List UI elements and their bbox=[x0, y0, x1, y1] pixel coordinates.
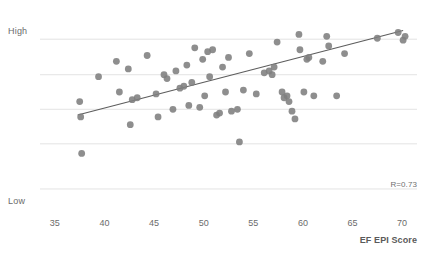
scatter-point bbox=[201, 92, 208, 99]
scatter-point bbox=[125, 66, 132, 73]
x-tick-label: 60 bbox=[290, 218, 316, 228]
x-tick-label: 35 bbox=[42, 218, 68, 228]
x-axis-title: EF EPI Score bbox=[360, 235, 417, 245]
y-axis-label-low: Low bbox=[8, 196, 25, 206]
data-points bbox=[76, 29, 408, 157]
scatter-point bbox=[271, 64, 278, 71]
scatter-point bbox=[116, 89, 123, 96]
scatter-point bbox=[240, 87, 247, 94]
scatter-point bbox=[225, 54, 232, 61]
scatter-chart: High Low 3540455055606570 EF EPI Score R… bbox=[0, 0, 426, 259]
x-tick-label: 70 bbox=[389, 218, 415, 228]
scatter-point bbox=[183, 62, 190, 69]
trend-line-segment bbox=[78, 31, 403, 115]
scatter-point bbox=[155, 114, 162, 121]
scatter-point bbox=[269, 71, 276, 78]
scatter-point bbox=[127, 121, 134, 128]
scatter-point bbox=[113, 58, 120, 65]
scatter-point bbox=[284, 92, 291, 99]
trend-line bbox=[78, 31, 403, 115]
scatter-point bbox=[180, 83, 187, 90]
scatter-point bbox=[153, 91, 160, 98]
scatter-point bbox=[228, 108, 235, 115]
scatter-point bbox=[222, 89, 229, 96]
x-tick-label: 45 bbox=[141, 218, 167, 228]
scatter-point bbox=[170, 106, 177, 113]
scatter-point bbox=[402, 33, 409, 40]
scatter-point bbox=[236, 139, 243, 146]
scatter-point bbox=[78, 150, 85, 157]
scatter-point bbox=[297, 46, 304, 53]
correlation-annotation: R=0.73 bbox=[390, 180, 417, 189]
scatter-point bbox=[253, 91, 260, 98]
y-axis-label-high: High bbox=[8, 26, 27, 36]
scatter-point bbox=[185, 102, 192, 109]
scatter-point bbox=[199, 56, 206, 63]
scatter-point bbox=[341, 50, 348, 57]
scatter-point bbox=[296, 31, 303, 38]
scatter-point bbox=[333, 92, 340, 99]
x-tick-label: 55 bbox=[240, 218, 266, 228]
scatter-point bbox=[305, 54, 312, 61]
scatter-point bbox=[292, 115, 299, 122]
x-tick-label: 50 bbox=[191, 218, 217, 228]
scatter-point bbox=[216, 110, 223, 117]
scatter-point bbox=[301, 89, 308, 96]
scatter-point bbox=[76, 98, 83, 105]
scatter-point bbox=[319, 58, 326, 65]
x-tick-label: 40 bbox=[91, 218, 117, 228]
scatter-point bbox=[144, 52, 151, 59]
gridlines bbox=[40, 39, 417, 189]
scatter-point bbox=[286, 98, 293, 105]
scatter-point bbox=[134, 94, 141, 101]
scatter-point bbox=[209, 46, 216, 53]
scatter-point bbox=[234, 106, 241, 113]
scatter-point bbox=[95, 73, 102, 80]
scatter-point bbox=[164, 75, 171, 82]
scatter-point bbox=[77, 114, 84, 121]
scatter-point bbox=[191, 44, 198, 51]
scatter-point bbox=[289, 108, 296, 115]
scatter-point bbox=[196, 104, 203, 111]
scatter-point bbox=[310, 92, 317, 99]
scatter-point bbox=[219, 64, 226, 71]
scatter-point bbox=[395, 29, 402, 36]
scatter-point bbox=[374, 35, 381, 42]
scatter-point bbox=[206, 73, 213, 80]
scatter-point bbox=[325, 43, 332, 50]
scatter-point bbox=[246, 50, 253, 57]
x-tick-label: 65 bbox=[340, 218, 366, 228]
scatter-point bbox=[173, 67, 180, 74]
scatter-point bbox=[323, 33, 330, 40]
scatter-point bbox=[188, 79, 195, 86]
scatter-point bbox=[274, 39, 281, 46]
